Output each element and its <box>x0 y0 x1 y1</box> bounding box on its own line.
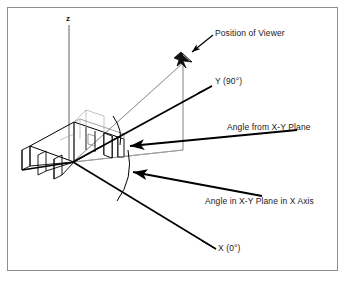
position-of-viewer-label: Position of Viewer <box>215 28 285 38</box>
angle-from-xy-plane-label: Angle from X-Y Plane <box>227 122 311 132</box>
wireframe-model <box>22 110 124 179</box>
z-axis-label: z <box>66 14 70 23</box>
y-axis-label: Y (90°) <box>215 76 242 86</box>
angle-in-xy-plane-label: Angle in X-Y Plane in X Axis <box>205 196 314 206</box>
leader-x-axis <box>202 241 216 249</box>
leader-angle-from-plane <box>130 130 297 146</box>
line-of-sight <box>73 63 183 162</box>
diagram-page: z Position of Viewer Y (90°) Angle from … <box>0 0 351 284</box>
leader-y-axis <box>198 86 212 93</box>
x-axis-label: X (0°) <box>218 243 240 253</box>
leader-position-of-viewer <box>192 35 213 52</box>
diagram-canvas <box>0 0 351 284</box>
leader-angle-in-plane <box>133 172 262 196</box>
